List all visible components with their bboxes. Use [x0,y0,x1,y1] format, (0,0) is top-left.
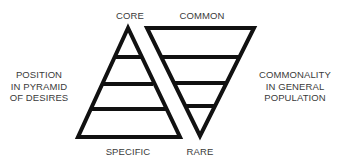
pyramid-of-desires [78,28,180,137]
inverted-side-label-line-1: COMMONALITY [252,69,338,81]
pyramid-side-label-line-3: OF DESIRES [4,92,74,104]
pyramid-top-label: CORE [110,10,150,22]
inverted-pyramid-commonality [147,28,254,136]
pyramid-side-label-line-2: IN PYRAMID [4,81,74,93]
inverted-side-label: COMMONALITY IN GENERAL POPULATION [252,69,338,104]
pyramid-side-label: POSITION IN PYRAMID OF DESIRES [4,69,74,104]
inverted-side-label-line-2: IN GENERAL [252,81,338,93]
inverted-top-label: COMMON [172,10,232,22]
pyramid-side-label-line-1: POSITION [4,69,74,81]
pyramid-bottom-label: SPECIFIC [100,146,156,158]
inverted-bottom-label: RARE [180,146,220,158]
inverted-side-label-line-3: POPULATION [252,92,338,104]
